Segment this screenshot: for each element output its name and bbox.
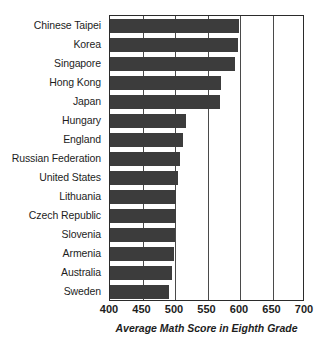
bar-row — [110, 133, 305, 147]
bar — [110, 190, 176, 204]
category-label: Armenia — [63, 247, 101, 259]
x-tick-label-650: 650 — [262, 303, 280, 315]
bar — [110, 266, 172, 280]
bar — [110, 171, 178, 185]
category-label: Australia — [61, 266, 101, 278]
category-label: England — [63, 133, 101, 145]
category-label: Singapore — [54, 57, 101, 69]
bar — [110, 95, 220, 109]
category-label: Russian Federation — [12, 152, 101, 164]
x-tick-label-500: 500 — [165, 303, 183, 315]
bar-row — [110, 114, 305, 128]
category-label: Japan — [73, 95, 101, 107]
category-label: Slovenia — [62, 228, 101, 240]
bar — [110, 19, 239, 33]
x-tick-label-700: 700 — [295, 303, 313, 315]
category-label: Hungary — [62, 114, 101, 126]
plot-area — [109, 15, 304, 301]
bar-row — [110, 76, 305, 90]
bar — [110, 285, 169, 299]
bar — [110, 228, 175, 242]
bar-row — [110, 228, 305, 242]
x-tick-label-400: 400 — [100, 303, 118, 315]
bar — [110, 152, 180, 166]
bars-layer — [110, 16, 303, 300]
category-label: United States — [39, 171, 101, 183]
bar — [110, 57, 235, 71]
x-tick-label-600: 600 — [230, 303, 248, 315]
x-tick-label-550: 550 — [197, 303, 215, 315]
bar — [110, 247, 174, 261]
bar — [110, 114, 186, 128]
category-label: Chinese Taipei — [34, 19, 101, 31]
bar — [110, 38, 238, 52]
bar-row — [110, 171, 305, 185]
category-label: Korea — [73, 38, 101, 50]
bar-row — [110, 266, 305, 280]
bar-row — [110, 152, 305, 166]
bar-row — [110, 19, 305, 33]
bar-row — [110, 38, 305, 52]
x-tick-label-450: 450 — [132, 303, 150, 315]
category-label: Sweden — [64, 285, 101, 297]
bar-row — [110, 57, 305, 71]
bar-row — [110, 247, 305, 261]
category-label: Lithuania — [59, 190, 101, 202]
math-score-bar-chart: Chinese TaipeiKoreaSingaporeHong KongJap… — [0, 0, 321, 353]
bar — [110, 133, 183, 147]
category-label: Czech Republic — [29, 209, 101, 221]
bar — [110, 209, 176, 223]
x-axis-title: Average Math Score in Eighth Grade — [109, 322, 304, 334]
bar — [110, 76, 221, 90]
bar-row — [110, 209, 305, 223]
bar-row — [110, 285, 305, 299]
x-axis-tick-labels: 400450500550600650700 — [0, 303, 321, 319]
category-axis-labels: Chinese TaipeiKoreaSingaporeHong KongJap… — [0, 15, 105, 301]
bar-row — [110, 95, 305, 109]
category-label: Hong Kong — [49, 76, 101, 88]
bar-row — [110, 190, 305, 204]
